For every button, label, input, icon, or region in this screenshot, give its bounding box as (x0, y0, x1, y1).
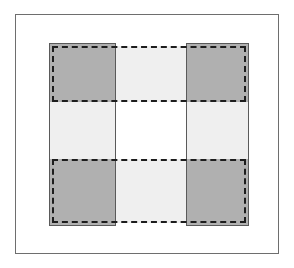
outer-frame (15, 14, 279, 254)
empty-center (116, 102, 186, 159)
bottom-horizontal-band (52, 159, 246, 223)
top-horizontal-band (52, 46, 246, 102)
diagram-canvas (0, 0, 294, 268)
